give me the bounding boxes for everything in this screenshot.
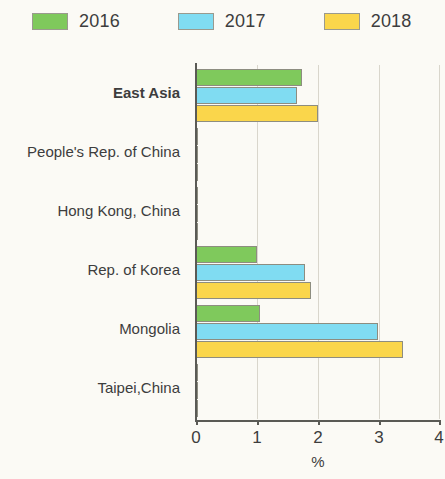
tick-label-2: 2	[303, 428, 333, 448]
tick-mark-4	[439, 420, 441, 425]
bar-east-asia-2017	[196, 87, 297, 104]
category-label-east-asia: East Asia	[0, 85, 180, 100]
tick-mark-2	[318, 420, 320, 425]
category-label-korea: Rep. of Korea	[0, 262, 180, 277]
x-axis-title: %	[196, 453, 440, 470]
tick-label-0: 0	[181, 428, 211, 448]
chart-legend: 2016 2017 2018	[0, 6, 445, 36]
legend-item-2018: 2018	[324, 11, 412, 32]
tick-label-3: 3	[364, 428, 394, 448]
legend-swatch-2018	[324, 13, 360, 30]
gridline-2	[318, 65, 319, 419]
category-label-prc: People's Rep. of China	[0, 144, 180, 159]
bar-east-asia-2018	[196, 105, 318, 122]
bar-chart: East Asia People's Rep. of China Hong Ko…	[0, 56, 445, 479]
legend-label-2017: 2017	[225, 11, 266, 32]
legend-swatch-2016	[32, 13, 68, 30]
bar-korea-2017	[196, 264, 305, 281]
plot-area	[196, 65, 440, 419]
gridline-3	[379, 65, 380, 419]
bar-mongolia-2017	[196, 323, 378, 340]
legend-swatch-2017	[178, 13, 214, 30]
bar-mongolia-2018	[196, 341, 403, 358]
legend-label-2018: 2018	[371, 11, 412, 32]
tick-mark-1	[257, 420, 259, 425]
category-label-mongolia: Mongolia	[0, 321, 180, 336]
tick-label-1: 1	[242, 428, 272, 448]
legend-item-2017: 2017	[178, 11, 266, 32]
category-axis: East Asia People's Rep. of China Hong Ko…	[0, 65, 188, 419]
legend-label-2016: 2016	[79, 11, 120, 32]
y-axis-line	[195, 63, 197, 421]
gridline-4	[439, 65, 440, 419]
bar-east-asia-2016	[196, 69, 302, 86]
bar-korea-2018	[196, 282, 311, 299]
tick-mark-0	[196, 420, 198, 425]
bar-mongolia-2016	[196, 305, 260, 322]
category-label-taipei-china: Taipei,China	[0, 380, 180, 395]
legend-item-2016: 2016	[32, 11, 120, 32]
bar-korea-2016	[196, 246, 257, 263]
tick-label-4: 4	[424, 428, 445, 448]
category-label-hong-kong: Hong Kong, China	[0, 203, 180, 218]
tick-mark-3	[379, 420, 381, 425]
